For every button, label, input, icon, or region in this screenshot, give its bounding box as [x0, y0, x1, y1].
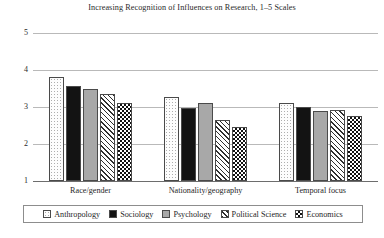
x-axis-group-label: Temporal focus: [295, 186, 346, 195]
legend-item: Sociology: [109, 210, 153, 219]
legend-item-label: Anthropology: [54, 210, 100, 219]
y-axis-tick-label: 2: [24, 140, 28, 148]
bar: [117, 103, 132, 181]
chart-legend: AnthropologySociologyPsychologyPolitical…: [23, 205, 363, 223]
bar: [330, 110, 345, 181]
legend-item-label: Psychology: [173, 210, 211, 219]
chart-title: Increasing Recognition of Influences on …: [0, 3, 384, 12]
y-axis-tick-label: 3: [24, 103, 28, 111]
bar-groups: Race/genderNationality/geographyTemporal…: [33, 33, 378, 181]
bar-group: Nationality/geography: [148, 33, 263, 181]
x-axis-group-label: Race/gender: [70, 186, 111, 195]
y-axis-tick-label: 5: [24, 29, 28, 37]
legend-item: Anthropology: [43, 210, 100, 219]
plot-area: 12345 Race/genderNationality/geographyTe…: [33, 33, 378, 181]
bar: [100, 94, 115, 181]
bar: [198, 103, 213, 181]
bar: [347, 116, 362, 181]
y-axis-tick-label: 1: [24, 177, 28, 185]
legend-swatch-icon: [43, 210, 51, 218]
legend-item-label: Sociology: [120, 210, 153, 219]
bar: [181, 108, 196, 181]
bar: [313, 111, 328, 181]
legend-swatch-icon: [162, 210, 170, 218]
y-axis-tick-label: 4: [24, 66, 28, 74]
bar: [66, 86, 81, 181]
bar-group: Temporal focus: [263, 33, 378, 181]
legend-item-label: Economics: [306, 210, 342, 219]
bar: [164, 97, 179, 181]
x-axis-group-label: Nationality/geography: [169, 186, 243, 195]
bar: [215, 120, 230, 181]
gridline-1: [33, 181, 378, 182]
legend-item: Psychology: [162, 210, 211, 219]
bar: [49, 77, 64, 181]
legend-swatch-icon: [221, 210, 229, 218]
legend-swatch-icon: [109, 210, 117, 218]
legend-item: Political Science: [221, 210, 287, 219]
bar-chart-figure: Increasing Recognition of Influences on …: [0, 0, 384, 238]
bar-group: Race/gender: [33, 33, 148, 181]
legend-item-label: Political Science: [232, 210, 287, 219]
bar: [232, 127, 247, 181]
bar: [296, 107, 311, 181]
legend-swatch-icon: [295, 210, 303, 218]
bar: [279, 103, 294, 181]
legend-item: Economics: [295, 210, 342, 219]
bar: [83, 89, 98, 182]
